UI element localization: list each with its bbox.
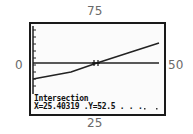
intersection-values: X=25.40319 .Y=52.5 . . . — [34, 103, 142, 111]
calculator-graph-screen: Intersection X=25.40319 .Y=52.5 . . . — [29, 22, 166, 116]
xmax-label: 50 — [168, 59, 183, 71]
readout-dots — [144, 108, 158, 110]
increasing-line — [33, 43, 159, 79]
ymax-label: 75 — [87, 5, 102, 17]
ymin-label: 25 — [87, 117, 102, 129]
xmin-label: 0 — [15, 59, 23, 71]
